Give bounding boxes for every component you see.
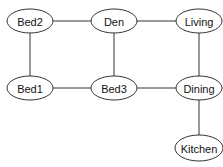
nodes: Bed2DenLivingBed1Bed3DiningKitchen: [7, 9, 223, 161]
node-bed1: Bed1: [7, 76, 53, 100]
node-label: Bed1: [17, 83, 43, 95]
node-kitchen: Kitchen: [175, 135, 223, 161]
node-dining: Dining: [176, 76, 222, 100]
node-label: Living: [185, 16, 214, 28]
node-living: Living: [176, 9, 222, 33]
node-label: Den: [104, 16, 124, 28]
node-bed2: Bed2: [7, 9, 53, 33]
node-label: Kitchen: [181, 143, 218, 155]
node-bed3: Bed3: [91, 76, 137, 100]
node-label: Bed3: [101, 83, 127, 95]
node-label: Dining: [183, 83, 214, 95]
room-adjacency-graph: Bed2DenLivingBed1Bed3DiningKitchen: [0, 0, 223, 167]
node-den: Den: [91, 9, 137, 33]
node-label: Bed2: [17, 16, 43, 28]
